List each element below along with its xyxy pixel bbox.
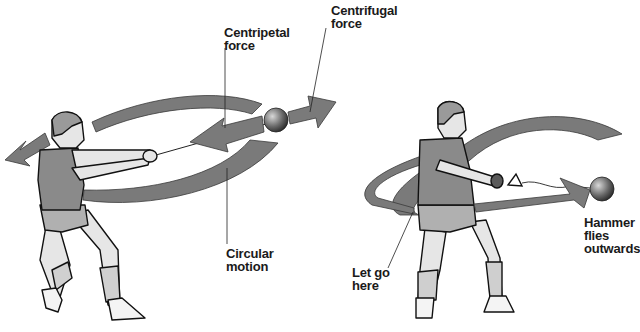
diagram-canvas [0, 0, 640, 332]
athlete-spinning [38, 112, 157, 320]
let-go-leader [388, 212, 413, 268]
hammer-ball-released [590, 177, 614, 201]
circular-motion-label: Circular motion [226, 247, 274, 273]
hammer-ball-spinning [264, 108, 288, 132]
let-go-label: Let go here [352, 266, 390, 292]
centrifugal-force-label: Centrifugal force [331, 4, 397, 30]
centripetal-force-label: Centripetal force [224, 26, 290, 52]
hammer-throw-diagram: Centripetal force Centrifugal force Circ… [0, 0, 640, 332]
hammer-flies-label: Hammer flies outwards [584, 216, 640, 255]
hammer-handle [508, 174, 522, 186]
